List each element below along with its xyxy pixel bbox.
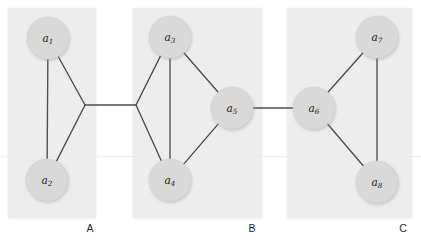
group-label-c: C xyxy=(399,222,407,234)
node-a6[interactable]: a6 xyxy=(293,87,335,129)
node-a2[interactable]: a2 xyxy=(26,159,68,201)
group-label-group: ABC xyxy=(86,222,407,234)
node-a8[interactable]: a8 xyxy=(356,161,398,203)
diagram-canvas: a1a2a3a4a5a6a7a8 ABC xyxy=(0,0,421,244)
group-label-a: A xyxy=(86,222,93,234)
group-label-b: B xyxy=(248,222,255,234)
node-a3[interactable]: a3 xyxy=(149,16,191,58)
edge-a1-a2 xyxy=(47,58,48,160)
node-a1[interactable]: a1 xyxy=(27,17,69,59)
node-a7[interactable]: a7 xyxy=(356,16,398,58)
graph-diagram-figure: a1a2a3a4a5a6a7a8 ABC xyxy=(0,0,421,244)
node-a4[interactable]: a4 xyxy=(149,159,191,201)
node-a5[interactable]: a5 xyxy=(211,87,253,129)
